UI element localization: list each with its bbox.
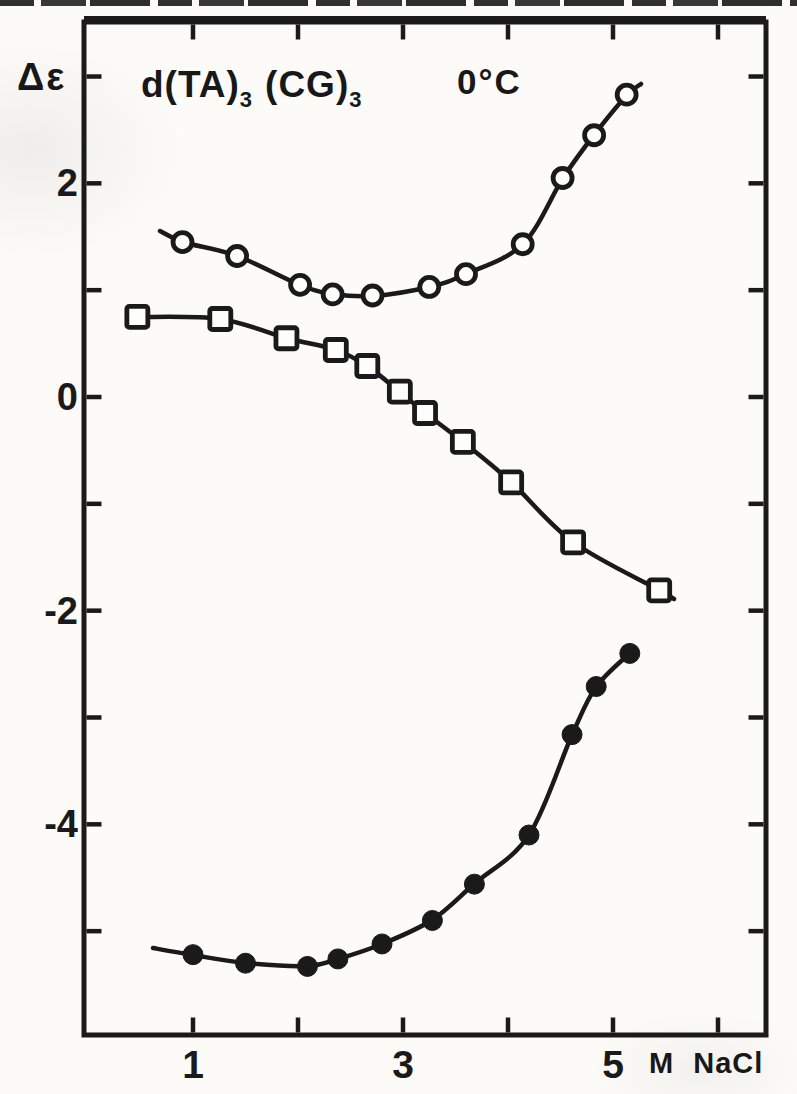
filled-circle-marker (236, 953, 256, 973)
open-circle-marker (323, 285, 342, 304)
open-circle-marker (291, 275, 310, 294)
chart-title-segment: d(TA) (141, 64, 240, 105)
open-circle-marker (173, 233, 192, 252)
filled-circle-marker (183, 945, 203, 965)
open-circle-marker (457, 265, 476, 284)
open-circle-marker (553, 168, 572, 187)
open-circle-marker (420, 277, 439, 296)
x-axis-label: M NaCl (649, 1047, 763, 1080)
x-tick-label: 3 (392, 1043, 414, 1086)
x-tick-label: 5 (602, 1043, 624, 1086)
plot-frame (84, 22, 766, 1035)
open-circle-marker (585, 126, 604, 145)
chart-title-segment: (CG) (265, 64, 349, 105)
open-square-marker (649, 580, 670, 601)
series-open-squares-curve (137, 317, 674, 599)
x-tick-label: 1 (182, 1043, 204, 1086)
open-square-marker (127, 306, 148, 327)
open-square-marker (325, 339, 346, 360)
open-circle-marker (363, 286, 382, 305)
filled-circle-marker (372, 934, 392, 954)
filled-circle-marker (519, 825, 539, 845)
open-square-marker (389, 381, 410, 402)
y-tick-label: -4 (44, 803, 78, 845)
open-square-marker (501, 472, 522, 493)
filled-circle-marker (620, 643, 640, 663)
chart-title: d(TA)3(CG)3 (141, 64, 362, 106)
open-circle-marker (513, 235, 532, 254)
filled-circle-marker (328, 949, 348, 969)
open-square-marker (357, 356, 378, 377)
open-circle-marker (617, 85, 636, 104)
y-tick-label: 0 (57, 376, 78, 418)
open-circle-marker (228, 246, 247, 265)
y-tick-label: 2 (57, 162, 78, 204)
filled-circle-marker (422, 910, 442, 930)
open-square-marker (452, 431, 473, 452)
chart-title-subscript: 3 (349, 87, 362, 112)
filled-circle-marker (464, 874, 484, 894)
y-axis-label: Δε (17, 56, 66, 99)
chart-title-subscript: 3 (240, 87, 253, 112)
open-square-marker (276, 328, 297, 349)
open-square-marker (210, 309, 231, 330)
filled-circle-marker (586, 677, 606, 697)
y-tick-label: -2 (44, 590, 78, 632)
chart-svg: 13520-2-4 (0, 0, 797, 1094)
filled-circle-marker (562, 725, 582, 745)
open-square-marker (415, 403, 436, 424)
scanned-chart-page: { "page": { "ink_color": "#1a1a1a", "pap… (0, 0, 797, 1094)
temperature-annotation: 0°C (457, 62, 522, 102)
open-square-marker (563, 532, 584, 553)
filled-circle-marker (297, 956, 317, 976)
series-filled-circles-curve (153, 653, 630, 966)
